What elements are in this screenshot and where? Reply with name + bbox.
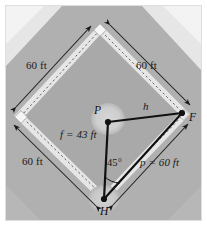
baseball-diamond-diagram <box>0 0 207 226</box>
vertex-label-P: P <box>94 105 101 117</box>
vertex-label-F: F <box>189 112 196 124</box>
vertex-dot-H <box>101 196 107 202</box>
label-angle-45: 45° <box>107 158 122 169</box>
label-side-p: p = 60 ft <box>140 157 179 168</box>
label-distance-third-to-second: 60 ft <box>26 60 47 71</box>
vertex-label-H: H <box>100 206 108 218</box>
label-side-h: h <box>143 101 149 112</box>
vertex-dot-F <box>179 110 185 116</box>
label-distance-second-to-first: 60 ft <box>136 60 157 71</box>
figure-container: 60 ft 60 ft 60 ft f = 43 ft p = 60 ft h … <box>0 0 207 226</box>
vertex-dot-P <box>105 119 111 125</box>
label-distance-home-to-third: 60 ft <box>22 156 43 167</box>
label-side-f: f = 43 ft <box>60 129 97 140</box>
